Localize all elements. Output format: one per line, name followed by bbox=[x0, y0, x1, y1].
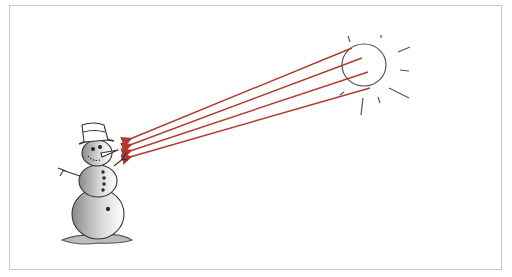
sun-icon bbox=[340, 35, 410, 115]
illustration-canvas bbox=[0, 0, 512, 277]
snowman-icon bbox=[58, 123, 132, 244]
ray-4 bbox=[130, 88, 370, 157]
light-rays bbox=[130, 48, 370, 157]
ray-3 bbox=[130, 72, 368, 151]
ray-2 bbox=[130, 58, 362, 145]
